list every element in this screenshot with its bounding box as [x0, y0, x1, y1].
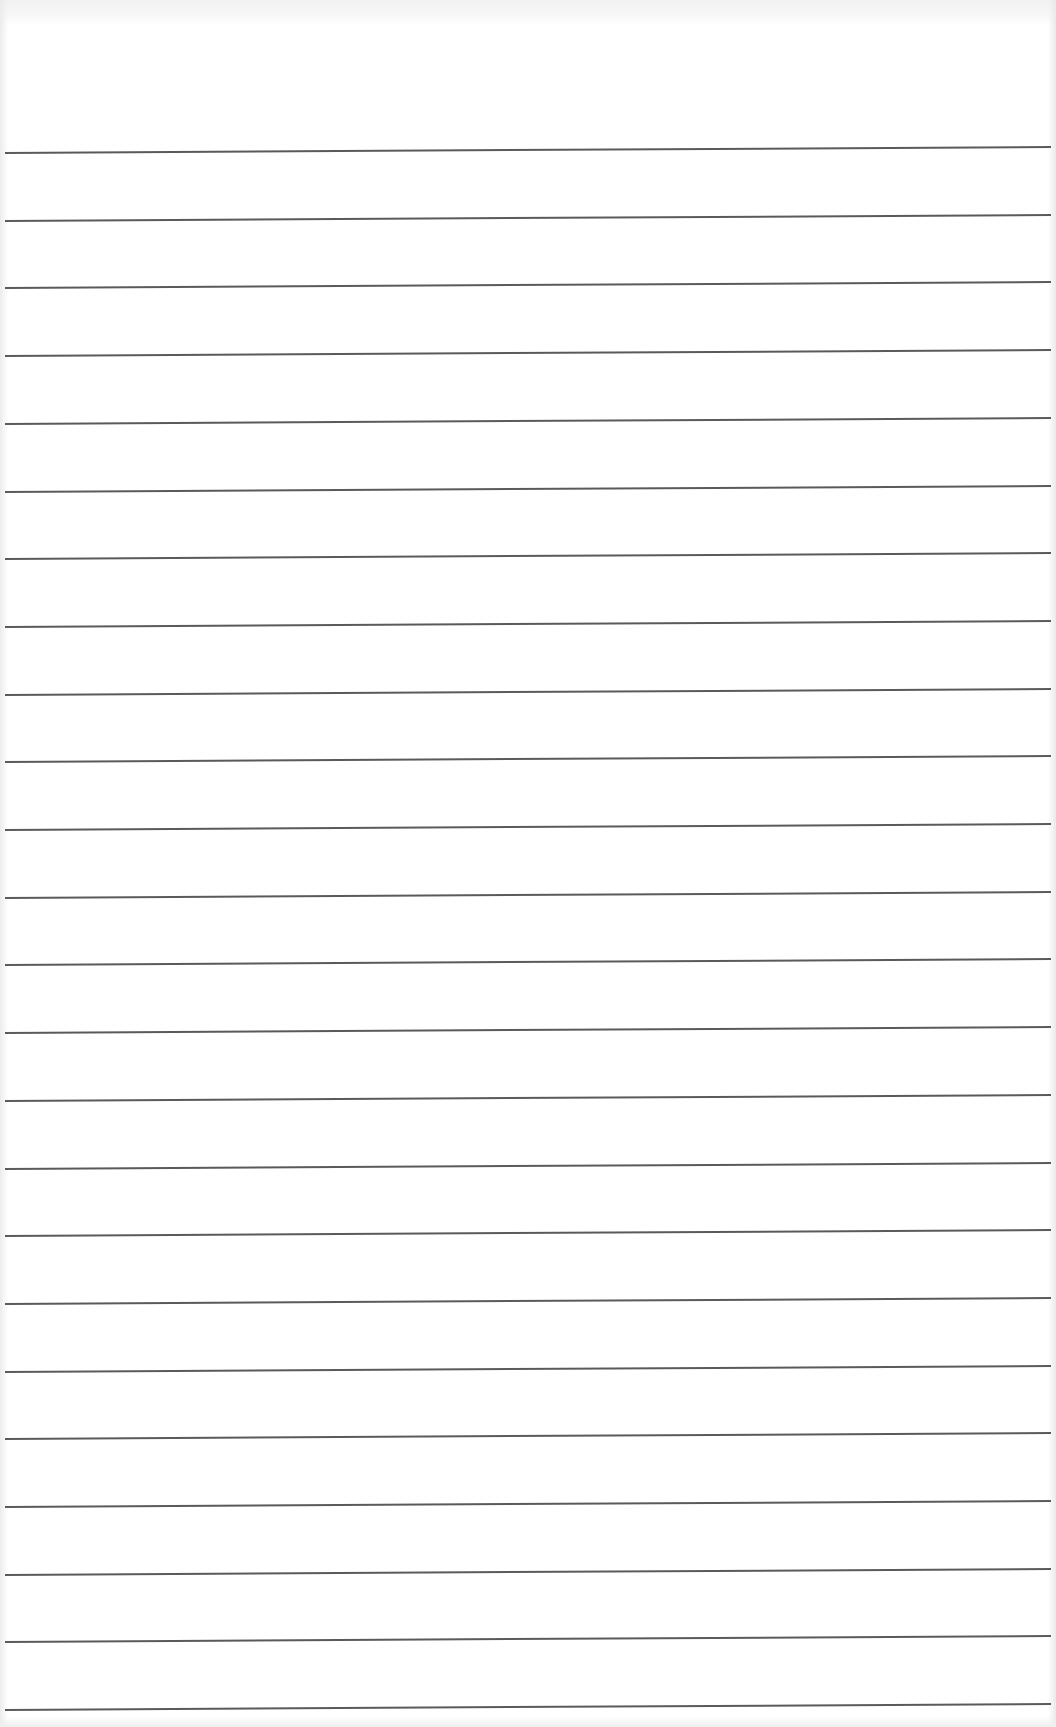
ruled-line: [5, 417, 1051, 425]
ruled-line: [5, 891, 1051, 899]
ruled-line: [5, 349, 1051, 357]
ruled-line: [5, 1161, 1051, 1169]
ruled-line: [5, 484, 1051, 492]
ruled-lines: [0, 0, 1056, 1727]
ruled-line: [5, 1703, 1051, 1711]
ruled-line: [5, 552, 1051, 560]
ruled-line: [5, 755, 1051, 763]
ruled-paper-page: [0, 0, 1056, 1727]
ruled-line: [5, 281, 1051, 289]
ruled-line: [5, 1297, 1051, 1305]
ruled-line: [5, 1432, 1051, 1440]
ruled-line: [5, 620, 1051, 628]
ruled-line: [5, 1026, 1051, 1034]
ruled-line: [5, 1094, 1051, 1102]
ruled-line: [5, 1635, 1051, 1643]
ruled-line: [5, 1229, 1051, 1237]
ruled-line: [5, 214, 1051, 222]
ruled-line: [5, 146, 1051, 154]
ruled-line: [5, 823, 1051, 831]
ruled-line: [5, 1365, 1051, 1373]
ruled-line: [5, 688, 1051, 696]
ruled-line: [5, 1568, 1051, 1576]
ruled-line: [5, 1500, 1051, 1508]
ruled-line: [5, 958, 1051, 966]
